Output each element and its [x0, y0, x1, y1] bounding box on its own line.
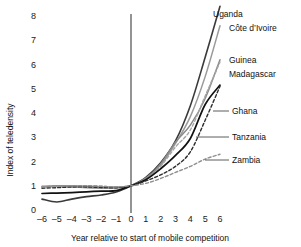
x-tick-6: 6: [217, 214, 222, 224]
y-tick-4: 4: [31, 108, 36, 118]
x-tick-1: 1: [143, 214, 148, 224]
x-tick-3: 3: [173, 214, 178, 224]
series-label-ghana: Ghana: [232, 106, 258, 116]
x-tick-4: 4: [188, 214, 193, 224]
y-tick-0: 0: [31, 205, 36, 215]
y-tick-2: 2: [31, 157, 36, 167]
x-axis-title: Year relative to start of mobile competi…: [71, 233, 229, 243]
series-label-madagascar: Madagascar: [229, 69, 276, 79]
chart-background: [0, 0, 301, 247]
x-tick-neg6: –6: [37, 214, 47, 224]
y-axis-title: Index of teledensity: [5, 103, 15, 177]
x-tick-0: 0: [128, 214, 133, 224]
y-axis-tick-labels: 012345678: [31, 11, 36, 215]
y-tick-1: 1: [31, 181, 36, 191]
teledensity-line-chart: 012345678 –6–5–4–3–2–10123456 UgandaCôte…: [0, 0, 301, 247]
y-tick-8: 8: [31, 11, 36, 21]
series-label-c-te-d-ivoire: Côte d’Ivoire: [229, 23, 277, 33]
chart-container: 012345678 –6–5–4–3–2–10123456 UgandaCôte…: [0, 0, 301, 247]
series-label-guinea: Guinea: [229, 55, 257, 65]
series-label-uganda: Uganda: [213, 9, 243, 19]
x-tick-neg1: –1: [111, 214, 121, 224]
y-tick-3: 3: [31, 132, 36, 142]
series-label-zambia: Zambia: [232, 155, 261, 165]
x-tick-5: 5: [203, 214, 208, 224]
x-tick-neg3: –3: [81, 214, 91, 224]
y-tick-7: 7: [31, 35, 36, 45]
y-tick-5: 5: [31, 84, 36, 94]
x-tick-2: 2: [158, 214, 163, 224]
x-tick-neg4: –4: [67, 214, 77, 224]
y-tick-6: 6: [31, 60, 36, 70]
x-tick-neg5: –5: [52, 214, 62, 224]
x-tick-neg2: –2: [96, 214, 106, 224]
series-label-tanzania: Tanzania: [232, 132, 266, 142]
